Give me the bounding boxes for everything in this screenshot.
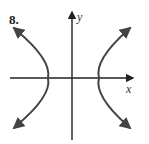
y-axis-label: y bbox=[77, 10, 82, 25]
hyperbola-graph bbox=[0, 0, 149, 144]
x-axis-label: x bbox=[126, 82, 131, 97]
